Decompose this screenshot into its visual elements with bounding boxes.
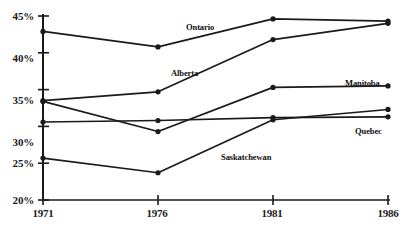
- data-point-saskatchewan-1971: [40, 155, 45, 160]
- series-line-quebec: [43, 117, 388, 122]
- y-tick-label-25: 25%: [0, 157, 34, 169]
- y-tick-label-30: 30%: [0, 136, 34, 148]
- data-point-alberta-1981: [270, 37, 275, 42]
- y-tick-label-20: 20%: [0, 194, 34, 206]
- data-point-alberta-1986: [385, 21, 390, 26]
- data-point-quebec-1986: [385, 114, 390, 119]
- series-line-alberta: [43, 23, 388, 100]
- series-label-manitoba: Manitoba: [345, 78, 380, 88]
- data-point-manitoba-1976: [155, 129, 160, 134]
- data-point-manitoba-1986: [385, 83, 390, 88]
- series-label-alberta: Alberta: [171, 68, 198, 78]
- data-point-quebec-1971: [40, 119, 45, 124]
- data-point-manitoba-1981: [270, 85, 275, 90]
- x-tick-label-1981: 1981: [252, 207, 292, 219]
- data-point-ontario-1976: [155, 44, 160, 49]
- chart-series-group: [40, 16, 390, 175]
- data-point-saskatchewan-1981: [270, 117, 275, 122]
- chart-plot-area: [0, 0, 408, 234]
- series-label-ontario: Ontario: [186, 22, 214, 32]
- data-point-alberta-1976: [155, 89, 160, 94]
- y-tick-label-40: 40%: [0, 52, 34, 64]
- series-line-manitoba: [43, 86, 388, 132]
- data-point-manitoba-1971: [40, 99, 45, 104]
- y-tick-label-45: 45%: [0, 10, 34, 22]
- y-tick-label-35: 35%: [0, 94, 34, 106]
- data-point-saskatchewan-1976: [155, 170, 160, 175]
- series-label-saskatchewan: Saskatchewan: [221, 152, 271, 162]
- x-tick-label-1986: 1986: [368, 207, 408, 219]
- x-tick-label-1976: 1976: [137, 207, 177, 219]
- data-point-ontario-1981: [270, 16, 275, 21]
- x-tick-label-1971: 1971: [23, 207, 63, 219]
- series-label-quebec: Quebec: [355, 126, 382, 136]
- series-line-ontario: [43, 19, 388, 47]
- data-point-quebec-1976: [155, 118, 160, 123]
- data-point-ontario-1971: [40, 29, 45, 34]
- line-chart: 45%40%35%30%25%20% 1971197619811986 Onta…: [0, 0, 408, 234]
- data-point-saskatchewan-1986: [385, 107, 390, 112]
